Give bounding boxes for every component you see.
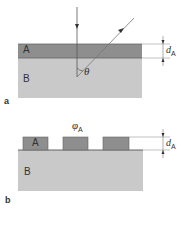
- thickness-label-b: dA: [166, 137, 176, 150]
- angle-theta-label: θ: [84, 65, 89, 77]
- layer-a-label: A: [23, 44, 30, 55]
- fraction-phi-label: φA: [72, 119, 83, 133]
- panel-a-label: a: [4, 96, 9, 106]
- substrate-b-label-b: B: [24, 166, 31, 177]
- thickness-label-a: dA: [166, 44, 176, 57]
- substrate-b-label-a: B: [23, 73, 30, 84]
- block-a-label: A: [32, 137, 39, 148]
- panel-b-label: b: [5, 195, 11, 205]
